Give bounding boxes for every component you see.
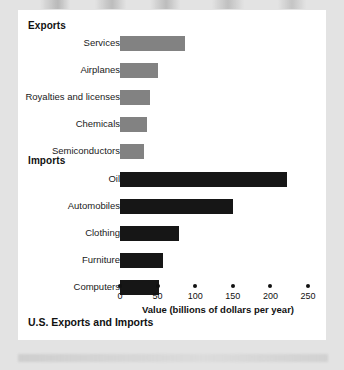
scan-artifact-top [40,0,320,9]
bar-row: Clothing [18,224,326,246]
x-axis-tick-marker [268,284,272,288]
bar-row: Furniture [18,251,326,273]
bar [120,63,158,78]
bar-category-label: Semiconductors [0,145,120,156]
bar-category-label: Oil [0,173,120,184]
bar-category-label: Airplanes [0,64,120,75]
bar-row: Royalties and licenses [18,88,326,110]
x-axis-tick-label: 200 [263,291,278,301]
x-axis-tick-marker [231,284,235,288]
bar-category-label: Royalties and licenses [0,91,120,102]
bar-category-label: Clothing [0,227,120,238]
x-axis-tick-marker [193,284,197,288]
x-axis-tick-label: 150 [225,291,240,301]
x-axis-title: Value (billions of dollars per year) [120,304,316,315]
scan-artifact-bottom [18,354,328,362]
bar [120,253,163,268]
x-axis-tick-marker [156,284,160,288]
figure-caption: U.S. Exports and Imports [28,316,153,328]
bar-row: Chemicals [18,115,326,137]
bar [120,199,233,214]
bar-category-label: Services [0,37,120,48]
figure-panel: Exports Imports ServicesAirplanesRoyalti… [18,10,326,340]
x-axis-tick-marker [118,284,122,288]
bar-category-label: Chemicals [0,118,120,129]
bar [120,90,150,105]
bar [120,226,179,241]
bar [120,172,287,187]
bar [120,144,144,159]
x-axis-tick-label: 50 [153,291,163,301]
bar-row: Oil [18,170,326,192]
bar-category-label: Furniture [0,254,120,265]
x-axis-tick-label: 0 [117,291,122,301]
bar-row: Semiconductors [18,142,326,164]
bar-row: Airplanes [18,61,326,83]
x-axis-tick-marker [306,284,310,288]
x-axis-tick-label: 250 [300,291,315,301]
bar-category-label: Automobiles [0,200,120,211]
bar [120,117,147,132]
bar-row: Services [18,34,326,56]
x-axis-tick-label: 100 [188,291,203,301]
bar-row: Automobiles [18,197,326,219]
bar [120,36,185,51]
